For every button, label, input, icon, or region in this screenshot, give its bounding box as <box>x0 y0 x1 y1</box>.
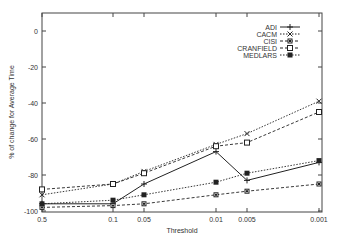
y-tick-label: -100 <box>24 208 38 215</box>
legend-item-cisi: CISI <box>263 38 300 45</box>
x-tick-label: 0.1 <box>108 216 118 223</box>
x-tick-label: 0.5 <box>37 216 47 223</box>
y-tick-label: -20 <box>28 64 38 71</box>
legend-label: MEDLARS <box>243 52 277 59</box>
y-axis: 0-20-40-60-80-100 <box>24 28 322 215</box>
legend-item-cranfield: CRANFIELD <box>237 45 300 52</box>
x-tick-label: 0.01 <box>209 216 223 223</box>
y-tick-label: -80 <box>28 172 38 179</box>
y-tick-label: -60 <box>28 136 38 143</box>
x-axis: 0.50.10.050.010.0050.001 <box>37 13 328 223</box>
x-tick-label: 0.001 <box>310 216 328 223</box>
y-tick-label: -40 <box>28 100 38 107</box>
legend-label: ADI <box>265 24 277 31</box>
series-group <box>39 99 322 210</box>
legend-label: CRANFIELD <box>237 45 277 52</box>
legend: ADICACMCISICRANFIELDMEDLARS <box>237 24 300 59</box>
legend-item-medlars: MEDLARS <box>243 52 300 59</box>
series-cranfield <box>40 110 322 192</box>
series-medlars <box>40 158 322 206</box>
line-chart: 0-20-40-60-80-100 0.50.10.050.010.0050.0… <box>0 0 338 243</box>
x-tick-label: 0.05 <box>137 216 151 223</box>
series-cacm <box>40 99 322 198</box>
x-tick-label: 0.005 <box>238 216 256 223</box>
legend-item-adi: ADI <box>265 24 300 31</box>
legend-item-cacm: CACM <box>256 31 300 38</box>
x-axis-title: Threshold <box>166 227 197 234</box>
legend-label: CACM <box>256 31 277 38</box>
plot-frame <box>42 13 322 212</box>
y-tick-label: 0 <box>34 28 38 35</box>
legend-label: CISI <box>263 38 277 45</box>
y-axis-title: % of change for Average Time <box>8 65 16 159</box>
